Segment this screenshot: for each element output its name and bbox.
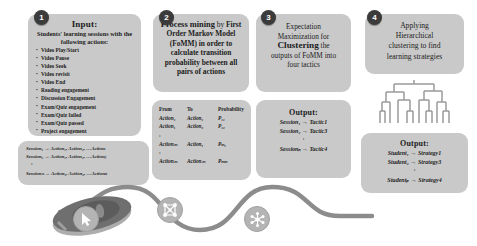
step-4-line-3: clustering to find	[389, 41, 441, 50]
list-item: Exam/Quiz engagement	[41, 103, 138, 111]
dendrogram-icon	[378, 78, 450, 126]
cell-probability: P₁₁	[218, 114, 247, 123]
session-sequence-line: Session₂ → Action₁, Action₂, …Actionⱼ	[22, 153, 145, 161]
step-1-session-sequences-box: Session₁ → Action₁, Action₂, …Actionᵢ Se…	[18, 141, 149, 185]
mapping-left: Student₁	[388, 150, 409, 156]
arrow-icon: →	[302, 119, 308, 125]
table-ellipsis: :	[156, 131, 247, 140]
cell-from: Actionₘ	[156, 157, 187, 166]
step-1-action-list: Video Play/Start Video Pause Video Seek …	[31, 46, 138, 135]
list-item: Project engagement	[41, 127, 138, 135]
list-item: Exam/Quiz passed	[41, 119, 138, 127]
cluster-hub-icon	[250, 212, 265, 227]
transition-probability-table: From To Probability Action₁ Action₁ P₁₁ …	[156, 105, 247, 166]
column-header-probability: Probability	[218, 105, 247, 114]
cluster-hub-node	[244, 206, 270, 232]
step-3-emphasis: Clustering	[277, 40, 318, 50]
step-4-line-4: learning strategies	[387, 52, 442, 61]
student-strategy-mapping: Student₂ → Strategy3	[365, 158, 464, 167]
step-2-process-mining-box: Process mining by First Order Markov Mod…	[153, 14, 249, 92]
table-row: Action₁ Action₁ P₁₁	[156, 114, 247, 123]
arrow-icon: →	[410, 150, 416, 156]
step-4-line-1: Applying	[400, 21, 429, 30]
arrow-icon: →	[410, 159, 416, 165]
mapping-right: Strategy3	[418, 159, 441, 165]
table-header-row: From To Probability	[156, 105, 247, 114]
step-3-output-box: Output: Session₁ → Tactic1 Session₂ → Ta…	[256, 100, 351, 178]
session-tactic-mapping: Session₁ → Tactic1	[260, 118, 347, 127]
step-1-subtitle: Students' learning sessions with the fol…	[33, 30, 136, 45]
step-2-text: Process mining by First Order Markov Mod…	[158, 20, 244, 76]
cell-probability: Pₘₘ	[218, 157, 247, 166]
mapping-right: Strategy1	[418, 150, 441, 156]
step-3-line-5: four tactics	[287, 60, 320, 69]
network-nodes-node	[157, 197, 183, 223]
step-4-output-title: Output:	[365, 139, 464, 148]
cell-to: Action₁	[187, 114, 218, 123]
step-3-line-1: Expectation	[286, 22, 321, 31]
session-sequence-line: Sessionₙ → Action₁, Action₂, …Actionₖ	[22, 170, 145, 178]
table-row: Action₁ Action₂ P₁₂	[156, 122, 247, 131]
list-item: Video Pause	[41, 54, 138, 62]
step-3-line-3: the	[319, 41, 330, 50]
cell-to: Actionₘ	[187, 157, 218, 166]
mapping-right: Tactic1	[309, 119, 327, 125]
table-ellipsis: :	[156, 148, 247, 157]
step-3-clustering-box: Expectation Maximization for Clustering …	[256, 14, 351, 92]
cursor-pointer-icon	[81, 213, 92, 226]
network-nodes-icon	[163, 203, 177, 217]
figure-canvas: 1 Input: Students' learning sessions wit…	[0, 0, 477, 246]
table-ellipsis-row: :	[156, 131, 247, 140]
arrow-icon: →	[302, 128, 308, 134]
cell-from: Action₁	[156, 114, 187, 123]
mapping-left: Sessionₙ	[280, 146, 301, 152]
cursor-pointer-node	[73, 206, 99, 232]
column-header-to: To	[187, 105, 218, 114]
step-2-badge: 2	[159, 10, 174, 25]
list-item: Exam/Quiz failed	[41, 111, 138, 119]
mapping-right: Tactic4	[309, 146, 327, 152]
cell-from: Actionₘ	[156, 140, 187, 149]
column-header-from: From	[156, 105, 187, 114]
list-item: Video End	[41, 78, 138, 86]
list-item: Video Seek	[41, 62, 138, 70]
step-3-badge: 3	[261, 10, 276, 25]
step-3-output-title: Output:	[260, 108, 347, 117]
list-item: Video Play/Start	[41, 46, 138, 54]
table-row: Actionₘ Action₁ Pₘ₁	[156, 140, 247, 149]
mapping-left: Student₂	[388, 159, 409, 165]
step-3-line-4: outputs of FoMM into	[271, 51, 336, 60]
step-1-badge: 1	[34, 10, 49, 25]
step-4-text: Applying Hierarchical clustering to find…	[370, 21, 459, 62]
step-3-text: Expectation Maximization for Clustering …	[261, 22, 346, 70]
step-4-line-2: Hierarchical	[396, 31, 434, 40]
arrow-icon: →	[302, 146, 308, 152]
session-tactic-mapping: Sessionₙ → Tactic4	[260, 145, 347, 154]
session-sequence-line: Session₁ → Action₁, Action₂, …Actionᵢ	[22, 145, 145, 153]
cell-to: Action₁	[187, 140, 218, 149]
footer-illustration	[0, 182, 477, 246]
mapping-left: Session₁	[280, 119, 301, 125]
list-item: Video revisit	[41, 70, 138, 78]
mapping-right: Tactic3	[309, 128, 327, 134]
list-item: Discussion Engagement	[41, 94, 138, 102]
session-tactic-mapping: Session₂ → Tactic3	[260, 127, 347, 136]
step-4-badge: 4	[367, 10, 382, 25]
table-row: Actionₘ Actionₘ Pₘₘ	[156, 157, 247, 166]
cell-probability: P₁₂	[218, 122, 247, 131]
table-ellipsis-row: :	[156, 148, 247, 157]
cell-from: Action₁	[156, 122, 187, 131]
mapping-left: Session₂	[280, 128, 301, 134]
step-2-lead-tail: by	[215, 20, 224, 29]
step-1-input-box: Input: Students' learning sessions with …	[28, 14, 141, 136]
cell-probability: Pₘ₁	[218, 140, 247, 149]
cell-to: Action₂	[187, 122, 218, 131]
step-2-transition-table-box: From To Probability Action₁ Action₁ P₁₁ …	[152, 100, 251, 180]
step-4-hierarchical-box: Applying Hierarchical clustering to find…	[365, 14, 464, 74]
student-strategy-mapping: Student₁ → Strategy1	[365, 149, 464, 158]
list-item: Reading engagement	[41, 86, 138, 94]
